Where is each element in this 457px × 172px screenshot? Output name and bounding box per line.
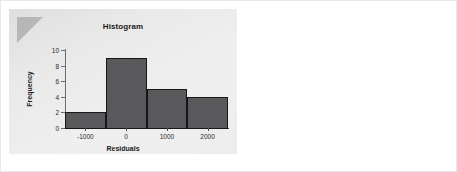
histogram-bar-3 bbox=[147, 89, 188, 129]
y-tick-label: 8 bbox=[55, 62, 59, 69]
x-tick-mark bbox=[85, 128, 86, 131]
chart-title: Histogram bbox=[9, 22, 237, 31]
x-tick-label: -1000 bbox=[77, 133, 94, 140]
x-tick-mark bbox=[126, 128, 127, 131]
y-tick-label: 4 bbox=[55, 93, 59, 100]
y-tick-label: 10 bbox=[52, 47, 59, 54]
x-tick-mark bbox=[208, 128, 209, 131]
x-tick-label: 0 bbox=[124, 133, 128, 140]
histogram-bar-4 bbox=[187, 97, 228, 129]
x-tick-label: 1000 bbox=[160, 133, 174, 140]
histogram-bar-1 bbox=[65, 112, 106, 129]
screenshot-card: Histogram Frequency Residuals 0 2 4 6 8 … bbox=[0, 0, 457, 172]
y-tick-label: 6 bbox=[55, 78, 59, 85]
y-tick-label: 2 bbox=[55, 109, 59, 116]
y-axis-label: Frequency bbox=[26, 71, 33, 106]
chart-panel: Histogram Frequency Residuals 0 2 4 6 8 … bbox=[9, 9, 237, 154]
x-axis-label: Residuals bbox=[9, 145, 237, 152]
x-tick-mark bbox=[167, 128, 168, 131]
x-tick-label: 2000 bbox=[200, 133, 214, 140]
histogram-bar-2 bbox=[106, 58, 147, 129]
y-tick-label: 0 bbox=[55, 125, 59, 132]
